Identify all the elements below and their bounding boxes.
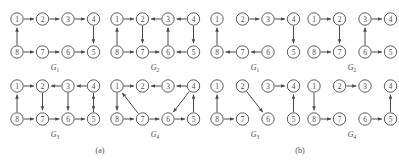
node-label-1: 1 xyxy=(15,82,19,91)
node-label-5: 5 xyxy=(292,48,296,57)
node-label-3: 3 xyxy=(266,15,270,24)
graph-label-a2: G2 xyxy=(151,63,160,73)
node-label-3: 3 xyxy=(363,82,367,91)
node-group: 12345678 xyxy=(11,80,100,125)
edge-4-to-6 xyxy=(173,91,189,112)
node-label-2: 2 xyxy=(41,82,45,91)
edge-group xyxy=(17,19,94,52)
node-label-8: 8 xyxy=(15,48,19,57)
node-label-1: 1 xyxy=(115,15,119,24)
node-label-5: 5 xyxy=(92,48,96,57)
edge-2-to-6 xyxy=(247,91,263,112)
node-label-7: 7 xyxy=(141,48,145,57)
node-label-4: 4 xyxy=(92,15,96,24)
node-label-1: 1 xyxy=(115,82,119,91)
node-label-7: 7 xyxy=(241,48,245,57)
node-label-4: 4 xyxy=(192,82,196,91)
node-group: 12345678 xyxy=(11,13,100,58)
node-label-7: 7 xyxy=(41,115,45,124)
node-label-5: 5 xyxy=(292,115,296,124)
node-group: 12345678 xyxy=(211,13,300,58)
node-label-4: 4 xyxy=(292,15,296,24)
node-label-3: 3 xyxy=(363,15,367,24)
node-label-8: 8 xyxy=(15,115,19,124)
edge-group xyxy=(321,19,382,52)
graph-b4: 12345678G4 xyxy=(308,80,397,140)
node-label-8: 8 xyxy=(312,115,316,124)
node-label-5: 5 xyxy=(192,115,196,124)
node-label-4: 4 xyxy=(292,82,296,91)
node-group: 12345678 xyxy=(111,13,200,58)
graph-label-a4: G4 xyxy=(151,130,160,140)
graph-a1: 12345678G1 xyxy=(11,13,100,73)
graph-b2: 12345678G2 xyxy=(308,13,397,73)
node-label-3: 3 xyxy=(166,15,170,24)
edge-group xyxy=(17,86,94,119)
node-label-7: 7 xyxy=(338,48,342,57)
node-label-4: 4 xyxy=(92,82,96,91)
node-label-5: 5 xyxy=(92,115,96,124)
graph-label-b1: G1 xyxy=(251,63,260,73)
node-label-3: 3 xyxy=(66,15,70,24)
node-label-1: 1 xyxy=(215,15,219,24)
node-label-4: 4 xyxy=(192,15,196,24)
node-label-2: 2 xyxy=(338,15,342,24)
graph-a3: 12345678G3 xyxy=(11,80,100,140)
node-group: 12345678 xyxy=(111,80,200,125)
panel-caption-a: (a) xyxy=(96,146,105,155)
node-label-1: 1 xyxy=(312,82,316,91)
edge-group xyxy=(117,19,194,52)
node-label-8: 8 xyxy=(115,48,119,57)
node-label-5: 5 xyxy=(192,48,196,57)
node-label-6: 6 xyxy=(363,115,367,124)
edge-group xyxy=(217,19,294,52)
node-label-7: 7 xyxy=(338,115,342,124)
node-label-2: 2 xyxy=(338,82,342,91)
node-label-1: 1 xyxy=(312,15,316,24)
node-label-2: 2 xyxy=(41,15,45,24)
node-label-3: 3 xyxy=(66,82,70,91)
node-label-6: 6 xyxy=(266,48,270,57)
graph-label-a1: G1 xyxy=(51,63,60,73)
node-label-6: 6 xyxy=(266,115,270,124)
node-label-4: 4 xyxy=(389,82,393,91)
edge-group xyxy=(117,86,194,119)
node-label-6: 6 xyxy=(363,48,367,57)
node-label-2: 2 xyxy=(141,15,145,24)
edge-group xyxy=(314,86,391,119)
node-label-7: 7 xyxy=(141,115,145,124)
node-label-6: 6 xyxy=(66,48,70,57)
node-label-2: 2 xyxy=(141,82,145,91)
node-group: 12345678 xyxy=(308,13,397,58)
edge-group xyxy=(217,86,294,119)
node-label-8: 8 xyxy=(215,48,219,57)
node-label-7: 7 xyxy=(41,48,45,57)
node-label-3: 3 xyxy=(166,82,170,91)
node-label-8: 8 xyxy=(115,115,119,124)
edge-7-to-1 xyxy=(122,93,138,114)
node-label-4: 4 xyxy=(389,15,393,24)
node-label-3: 3 xyxy=(266,82,270,91)
graph-label-a3: G3 xyxy=(51,130,60,140)
graph-figure: 12345678G112345678G212345678G312345678G4… xyxy=(0,0,399,160)
graph-b3: 12345678G3 xyxy=(211,80,300,140)
node-label-8: 8 xyxy=(215,115,219,124)
node-label-1: 1 xyxy=(215,82,219,91)
node-label-1: 1 xyxy=(15,15,19,24)
graph-label-b3: G3 xyxy=(251,130,260,140)
graph-a2: 12345678G2 xyxy=(111,13,200,73)
node-label-5: 5 xyxy=(389,48,393,57)
node-group: 12345678 xyxy=(308,80,397,125)
node-label-6: 6 xyxy=(166,48,170,57)
graph-label-b4: G4 xyxy=(348,130,357,140)
node-label-2: 2 xyxy=(241,82,245,91)
node-label-8: 8 xyxy=(312,48,316,57)
node-label-5: 5 xyxy=(389,115,393,124)
graph-b1: 12345678G1 xyxy=(211,13,300,73)
graph-label-b2: G2 xyxy=(348,63,357,73)
node-label-7: 7 xyxy=(241,115,245,124)
node-label-6: 6 xyxy=(66,115,70,124)
node-label-2: 2 xyxy=(241,15,245,24)
graph-a4: 12345678G4 xyxy=(111,80,200,140)
node-label-6: 6 xyxy=(166,115,170,124)
